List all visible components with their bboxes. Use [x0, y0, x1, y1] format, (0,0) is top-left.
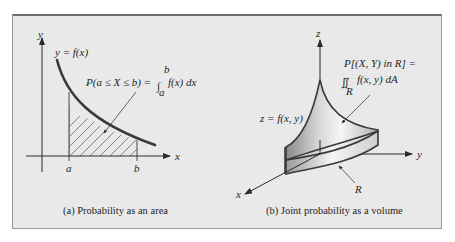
- shaded-area: [50, 105, 170, 156]
- curve-label: y = f(x): [54, 46, 88, 59]
- density-curve: [57, 60, 155, 145]
- volume-annotation-arrow: [342, 95, 370, 123]
- x-axis-label: x: [174, 150, 180, 162]
- tick-label-b: b: [134, 162, 140, 174]
- annotation-lhs: P(a ≤ X ≤ b) =: [85, 76, 151, 89]
- z-axis-label: z: [315, 27, 321, 39]
- integral-region-subscript: R: [345, 85, 353, 97]
- integral-upper-limit: b: [164, 63, 170, 75]
- caption-a: (a) Probability as an area: [63, 205, 168, 217]
- surface-label: z = f(x, y): [259, 112, 303, 125]
- tick-label-a: a: [66, 162, 72, 174]
- region-annotation-arrow: [339, 166, 355, 183]
- y-axis-label: y: [37, 28, 43, 40]
- panel-b-joint-probability-volume: z y x z = f(x, y) P[(X, Y) in R] = ∬ R f…: [235, 27, 422, 217]
- region-label: R: [354, 183, 362, 195]
- integral-lower-limit: a: [159, 86, 165, 98]
- annotation-line1: P[(X, Y) in R] =: [343, 57, 416, 70]
- y-axis-label-3d: y: [416, 148, 422, 160]
- annotation-arrow: [104, 92, 136, 133]
- panel-a-probability-area: y x y = f(x) P(a ≤ X ≤ b) = ∫ b a f(x) d…: [26, 28, 197, 217]
- x-axis-label-3d: x: [235, 188, 241, 200]
- annotation-rhs-3d: f(x, y) dA: [357, 73, 398, 86]
- x-axis-3d: [245, 154, 320, 194]
- annotation-rhs: f(x) dx: [168, 76, 197, 89]
- caption-b: (b) Joint probability as a volume: [266, 205, 403, 217]
- figure-canvas: y x y = f(x) P(a ≤ X ≤ b) = ∫ b a f(x) d…: [0, 0, 455, 242]
